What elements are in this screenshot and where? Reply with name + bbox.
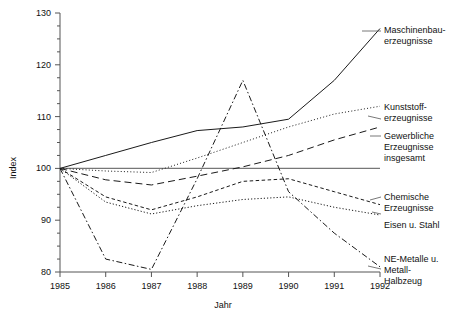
label-chemische-line2: Erzeugnisse [384, 203, 434, 213]
label-eisen-line1: Eisen u. Stahl [384, 220, 440, 230]
label-kunststoff-line1: Kunststoff- [384, 102, 427, 112]
label-nemetalle-line2: Metall- [384, 265, 411, 275]
x-axis-title: Jahr [214, 300, 232, 310]
label-chemische: Chemische Erzeugnisse [384, 192, 434, 213]
label-nemetalle-line1: NE-Metalle u. [384, 254, 439, 264]
x-tick-label: 1988 [187, 281, 207, 291]
x-tick-label: 1989 [233, 281, 253, 291]
y-tick-label: 80 [41, 267, 51, 277]
y-tick-label: 100 [36, 163, 51, 173]
x-tick-label: 1985 [50, 281, 70, 291]
label-gewerbliche-line2: Erzeugnisse [384, 142, 434, 152]
label-gewerbliche-line3: insgesamt [384, 153, 426, 163]
y-tick-label: 90 [41, 215, 51, 225]
x-tick-label: 1990 [279, 281, 299, 291]
x-tick-label: 1986 [96, 281, 116, 291]
x-tick-label: 1991 [324, 281, 344, 291]
label-gewerbliche-line1: Gewerbliche [384, 131, 434, 141]
label-kunststoff: Kunststoff- erzeugnisse [384, 102, 433, 123]
label-chemische-line1: Chemische [384, 192, 429, 202]
label-eisen: Eisen u. Stahl [384, 220, 440, 230]
label-kunststoff-line2: erzeugnisse [384, 113, 433, 123]
x-tick-label: 1987 [141, 281, 161, 291]
y-tick-label: 110 [37, 112, 51, 122]
label-maschinenbau-line1: Maschinenbau- [384, 25, 446, 35]
y-axis-title: Index [8, 156, 18, 179]
label-maschinenbau-line2: erzeugnisse [384, 36, 433, 46]
y-tick-label: 120 [36, 60, 51, 70]
label-nemetalle-line3: Halbzeug [384, 276, 422, 286]
chart-canvas: 8090100110120130 Index 19851986198719881… [0, 0, 454, 326]
y-tick-label: 130 [36, 8, 51, 18]
line-chart: 8090100110120130 Index 19851986198719881… [0, 0, 454, 326]
